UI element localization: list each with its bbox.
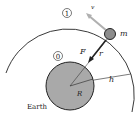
earth-radius-label: R — [76, 90, 83, 98]
orbit-marker: 1 — [65, 10, 69, 18]
force-label: F — [79, 47, 86, 56]
satellite — [105, 29, 116, 40]
radius-vector-label: r — [99, 49, 104, 58]
velocity-arrow — [88, 15, 107, 31]
altitude-label: h — [109, 75, 114, 84]
orbit-diagram: 1 0 v m F r R h Earth — [0, 0, 140, 119]
velocity-label: v — [91, 3, 95, 10]
earth-label: Earth — [27, 103, 47, 111]
surface-marker: 0 — [56, 53, 60, 61]
mass-label: m — [120, 29, 128, 38]
